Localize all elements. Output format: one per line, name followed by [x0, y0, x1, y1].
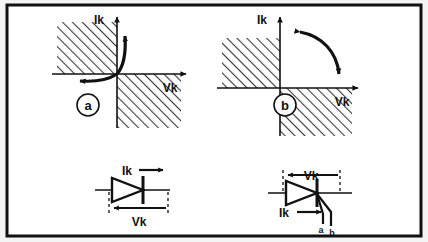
figure-root: Ik Vk a Ik Vk b Ik V	[0, 0, 428, 242]
figure-canvas: Ik Vk a Ik Vk b Ik V	[0, 0, 428, 242]
triac-gate-label-b: b	[329, 228, 335, 238]
diagram-a-hatch-upper-left	[57, 22, 117, 74]
diagram-b-y-axis-label: Ik	[257, 13, 267, 27]
diagram-a-y-axis-label: Ik	[94, 13, 104, 27]
diagram-b-tag-label: b	[281, 98, 289, 113]
diagram-a-tag-label: a	[84, 98, 92, 113]
diagram-b-x-axis-label: Vk	[335, 95, 350, 109]
triac-voltage-label: Vk	[304, 169, 319, 183]
diagram-b-hatch-upper-left	[222, 38, 280, 88]
diagram-a-x-axis-label: Vk	[163, 81, 178, 95]
diode-current-label: Ik	[122, 164, 132, 178]
diode-voltage-label: Vk	[132, 215, 147, 229]
triac-current-label: Ik	[279, 206, 289, 220]
